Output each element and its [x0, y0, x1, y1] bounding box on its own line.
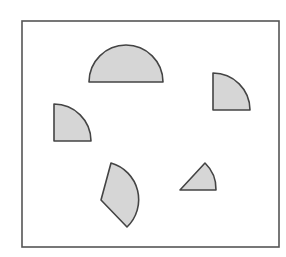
diagram-canvas — [0, 0, 286, 257]
